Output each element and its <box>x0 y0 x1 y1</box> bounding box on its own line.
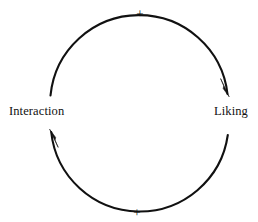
arc-liking-to-interaction <box>51 132 228 211</box>
arc-interaction-to-liking <box>51 15 228 95</box>
node-label-liking: Liking <box>214 105 248 118</box>
causal-loop-diagram: Interaction Liking + + <box>0 0 258 222</box>
polarity-label-top: + <box>132 7 148 20</box>
polarity-label-bottom: + <box>129 206 145 219</box>
node-label-interaction: Interaction <box>9 105 64 118</box>
